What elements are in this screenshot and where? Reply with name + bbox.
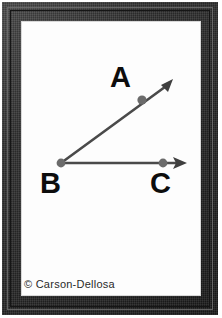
- ray-BA-line: [61, 84, 169, 163]
- copyright-notice: © Carson-Dellosa: [24, 278, 115, 290]
- point-label-c: C: [150, 169, 170, 198]
- point-A-dot: [137, 95, 146, 104]
- point-label-a: A: [110, 63, 130, 92]
- flashcard: A B C © Carson-Dellosa: [0, 0, 222, 318]
- point-label-b: B: [40, 169, 60, 198]
